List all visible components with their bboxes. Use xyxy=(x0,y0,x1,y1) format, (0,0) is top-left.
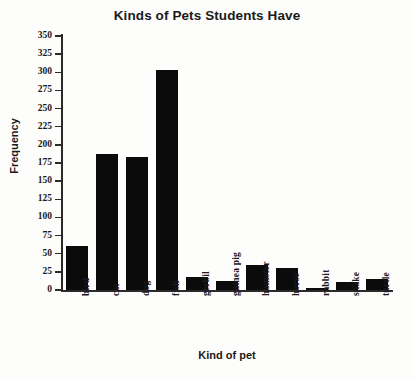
x-axis-tick-label: fish xyxy=(171,280,181,296)
x-axis-tick-label: cat xyxy=(111,283,121,296)
y-axis-tick-label: 325 xyxy=(26,49,52,59)
y-axis-tick-label: 250 xyxy=(26,104,52,114)
y-axis-tick-label: 125 xyxy=(26,194,52,204)
x-axis-tick-label: rabbit xyxy=(321,269,331,296)
x-axis-tick-label: horse xyxy=(291,273,301,296)
y-axis-tick xyxy=(55,271,62,273)
y-axis-tick-label: 225 xyxy=(26,122,52,132)
x-axis-tick-label: turtle xyxy=(381,272,391,296)
x-axis-tick-label: snake xyxy=(351,272,361,296)
x-axis-tick-label: guinea pig xyxy=(231,252,241,296)
y-axis-tick-label: 150 xyxy=(26,176,52,186)
x-axis-tick-label: hamster xyxy=(261,261,271,296)
bar-fish xyxy=(156,70,178,290)
y-axis-tick-label: 275 xyxy=(26,85,52,95)
bar-dog xyxy=(126,157,148,290)
y-axis-tick-labels: 0255075100125150175200225250275300325350 xyxy=(24,0,52,379)
y-axis-tick-label: 175 xyxy=(26,158,52,168)
y-axis-tick xyxy=(55,235,62,237)
y-axis-tick xyxy=(55,35,62,37)
y-axis-tick-label: 25 xyxy=(26,267,52,277)
y-axis-tick xyxy=(55,180,62,182)
x-axis-title: Kind of pet xyxy=(62,349,392,361)
x-axis-tick-label: bird xyxy=(81,278,91,296)
plot-area xyxy=(62,36,392,290)
chart-title: Kinds of Pets Students Have xyxy=(0,8,414,23)
y-axis-tick-label: 75 xyxy=(26,231,52,241)
y-axis-tick xyxy=(55,72,62,74)
y-axis-tick-label: 50 xyxy=(26,249,52,259)
y-axis-tick-label: 350 xyxy=(26,31,52,41)
y-axis-tick xyxy=(55,162,62,164)
y-axis-tick xyxy=(55,217,62,219)
y-axis-title: Frequency xyxy=(8,106,20,186)
y-axis-tick xyxy=(55,126,62,128)
chart-page: Kinds of Pets Students Have Frequency 02… xyxy=(0,0,414,379)
y-axis-tick-label: 100 xyxy=(26,212,52,222)
bar-cat xyxy=(96,154,118,290)
y-axis-tick xyxy=(55,289,62,291)
y-axis-tick xyxy=(55,108,62,110)
y-axis-tick-label: 0 xyxy=(26,285,52,295)
y-axis-tick-label: 300 xyxy=(26,67,52,77)
y-axis-tick xyxy=(55,253,62,255)
y-axis-tick xyxy=(55,90,62,92)
y-axis-tick xyxy=(55,144,62,146)
y-axis-tick-label: 200 xyxy=(26,140,52,150)
y-axis-tick xyxy=(55,53,62,55)
x-axis-tick-label: gerbil xyxy=(201,271,211,296)
x-axis-tick-label: dog xyxy=(141,281,151,296)
y-axis-tick xyxy=(55,199,62,201)
